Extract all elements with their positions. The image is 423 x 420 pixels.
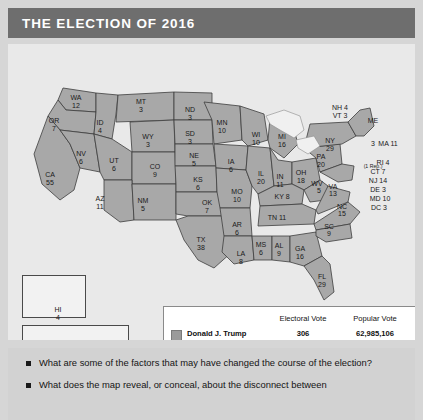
bullet-icon: [26, 383, 31, 388]
discussion-questions: What are some of the factors that may ha…: [8, 348, 415, 420]
candidate-party: (Republican): [187, 338, 247, 340]
column-header-electoral-vote: Electoral Vote: [272, 307, 334, 327]
electoral-vote-value: 306: [272, 327, 334, 340]
hawaii-inset: [22, 275, 86, 318]
election-results-table: Electoral Vote Popular Vote Donald J. Tr…: [163, 306, 415, 340]
figure-panel: WA12 OR7 ID4 MT3 WY3 NV6 UT6 CA55 CO9 AZ…: [8, 44, 415, 340]
section-header-bar: THE ELECTION OF 2016: [8, 8, 415, 38]
question-text: What does the map reveal, or conceal, ab…: [39, 379, 327, 392]
candidate-cell-trump: Donald J. Trump (Republican): [164, 327, 272, 340]
bullet-icon: [26, 361, 31, 366]
question-text: What are some of the factors that may ha…: [39, 357, 372, 370]
alaska-inset: [22, 325, 129, 340]
question-item: What are some of the factors that may ha…: [8, 357, 415, 370]
column-header-popular-vote: Popular Vote: [334, 307, 415, 327]
column-header-candidate: [164, 307, 272, 327]
us-electoral-map: WA12 OR7 ID4 MT3 WY3 NV6 UT6 CA55 CO9 AZ…: [8, 44, 415, 340]
legend-swatch-republican: [171, 330, 182, 340]
results-table: Electoral Vote Popular Vote Donald J. Tr…: [164, 307, 415, 340]
table-row: Donald J. Trump (Republican) 306 62,985,…: [164, 327, 415, 340]
question-item: What does the map reveal, or conceal, ab…: [8, 379, 415, 392]
table-header-row: Electoral Vote Popular Vote: [164, 307, 415, 327]
popular-vote-value: 62,985,106: [334, 327, 415, 340]
candidate-name: Donald J. Trump: [187, 329, 247, 338]
page-title: THE ELECTION OF 2016: [8, 16, 195, 31]
